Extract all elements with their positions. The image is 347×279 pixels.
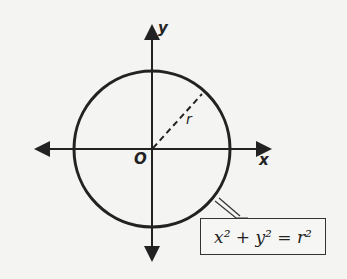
x-axis-label: x (259, 151, 269, 169)
equation-box: x² + y² = r² (200, 218, 326, 255)
origin-label: O (134, 150, 147, 168)
radius-label: r (186, 111, 192, 127)
y-axis-label: y (158, 19, 168, 37)
radius-line (153, 94, 202, 148)
